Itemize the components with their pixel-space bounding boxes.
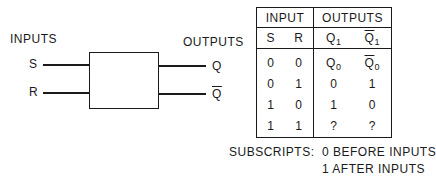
input-pin-r: R	[29, 85, 38, 99]
subscript-note-1: 1 AFTER INPUTS	[322, 162, 425, 176]
q-symbol: Q	[326, 56, 336, 70]
qbar-symbol: Q	[365, 56, 375, 70]
cell-q: ?	[314, 116, 354, 138]
qbar-symbol: Q	[365, 31, 375, 45]
cell-s: 0	[257, 49, 285, 74]
cell-qbar: 1	[354, 74, 392, 95]
inputs-label: INPUTS	[10, 32, 57, 46]
cell-s: 0	[257, 74, 285, 95]
cell-r: 0	[285, 49, 314, 74]
subscript: 0	[336, 62, 342, 72]
column-header-q1bar: Q1	[354, 28, 392, 49]
cell-r: 1	[285, 116, 314, 138]
wire-s	[43, 64, 90, 66]
cell-q: 0	[314, 74, 354, 95]
cell-qbar: Q0	[354, 49, 392, 74]
column-header-q1: Q1	[314, 28, 354, 49]
subscript: 0	[374, 62, 380, 72]
table-row: 1 0 1 0	[257, 95, 392, 116]
cell-qbar: ?	[354, 116, 392, 138]
wire-q	[158, 65, 206, 67]
table-row: 1 1 ? ?	[257, 116, 392, 138]
cell-r: 0	[285, 95, 314, 116]
q-symbol: Q	[326, 31, 336, 45]
table-row: 0 1 0 1	[257, 74, 392, 95]
cell-q: 1	[314, 95, 354, 116]
cell-s: 1	[257, 116, 285, 138]
flip-flop-block	[89, 52, 159, 109]
cell-s: 1	[257, 95, 285, 116]
subscripts-label: SUBSCRIPTS:	[229, 145, 315, 159]
wire-qbar	[158, 93, 206, 95]
group-header-input: INPUT	[257, 8, 314, 28]
table-row: 0 0 Q0 Q0	[257, 49, 392, 74]
column-header-r: R	[285, 28, 314, 49]
cell-r: 1	[285, 74, 314, 95]
output-pin-qbar: Q	[212, 87, 222, 101]
subscript-note-0: 0 BEFORE INPUTS	[322, 145, 436, 159]
subscript: 1	[336, 37, 342, 47]
truth-table: INPUT OUTPUTS S R Q1 Q1 0 0 Q0 Q0 0 1 0 …	[256, 7, 392, 138]
cell-qbar: 0	[354, 95, 392, 116]
subscript: 1	[374, 37, 380, 47]
input-pin-s: S	[29, 57, 38, 71]
outputs-label: OUTPUTS	[183, 35, 244, 49]
wire-r	[43, 92, 90, 94]
output-pin-q: Q	[212, 59, 222, 73]
column-header-s: S	[257, 28, 285, 49]
group-header-outputs: OUTPUTS	[314, 8, 392, 28]
cell-q: Q0	[314, 49, 354, 74]
